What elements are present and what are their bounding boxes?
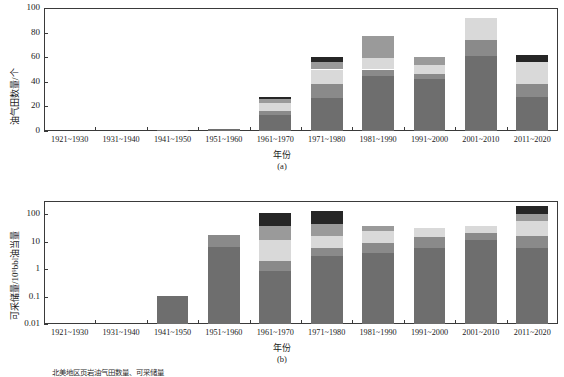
bar-segment	[414, 248, 446, 324]
bar-segment	[465, 56, 497, 131]
x-axis-title-b: 年份	[0, 341, 564, 354]
y-tick-label-a: 20	[6, 101, 40, 110]
x-tick-label-a: 1971~1980	[301, 135, 352, 144]
stacked-bar	[414, 8, 446, 131]
subplot-caption-b: (b)	[0, 354, 564, 364]
bar-segment	[414, 79, 446, 131]
y-tick-mark	[44, 324, 48, 325]
stacked-bar	[465, 8, 497, 131]
y-tick-label-b: 0.1	[6, 292, 40, 301]
bar-segment	[362, 58, 394, 69]
bar-segment	[208, 247, 240, 324]
bar-segment	[516, 248, 548, 324]
bar-segment	[362, 36, 394, 58]
subplot-caption-a: (a)	[0, 161, 564, 171]
stacked-bar	[208, 201, 240, 324]
bar-segment	[362, 226, 394, 231]
x-tick-mark	[250, 320, 251, 324]
bar-segment	[157, 296, 189, 324]
y-tick-mark	[44, 8, 48, 9]
x-tick-mark	[301, 127, 302, 131]
bar-segment	[311, 248, 343, 256]
y-tick-mark	[44, 82, 48, 83]
x-tick-label-b: 1991~2000	[404, 328, 455, 337]
bar-segment	[362, 231, 394, 243]
x-tick-label-b: 1921~1930	[44, 328, 95, 337]
y-tick-mark	[44, 242, 48, 243]
x-tick-label-a: 1961~1970	[250, 135, 301, 144]
x-tick-mark	[95, 127, 96, 131]
bar-segment	[311, 236, 343, 248]
chart-panel-b: 可采储量/10⁹bbl油当量 0.010.11101001921~1930193…	[0, 188, 564, 377]
x-tick-mark	[352, 320, 353, 324]
bar-segment	[362, 70, 394, 76]
bar-segment	[157, 130, 189, 131]
y-tick-label-a: 0	[6, 126, 40, 135]
bar-segment	[259, 115, 291, 131]
y-tick-mark	[44, 106, 48, 107]
y-tick-label-b: 0.01	[6, 319, 40, 328]
y-tick-label-a: 40	[6, 77, 40, 86]
bar-segment	[259, 103, 291, 112]
bar-segment	[311, 84, 343, 98]
x-tick-label-b: 2001~2010	[455, 328, 506, 337]
x-tick-mark	[301, 320, 302, 324]
stacked-bar	[259, 8, 291, 131]
bar-segment	[311, 98, 343, 131]
y-tick-label-a: 60	[6, 52, 40, 61]
bar-segment	[465, 40, 497, 56]
bar-segment	[414, 65, 446, 75]
bar-segment	[465, 18, 497, 40]
y-tick-mark	[44, 57, 48, 58]
x-tick-mark	[455, 127, 456, 131]
bar-segment	[259, 213, 291, 226]
bar-segment	[311, 70, 343, 85]
bar-segment	[311, 224, 343, 236]
y-tick-label-b: 100	[6, 209, 40, 218]
x-tick-mark	[95, 320, 96, 324]
x-tick-label-b: 1951~1960	[198, 328, 249, 337]
stacked-bar	[516, 201, 548, 324]
bar-segment	[311, 62, 343, 69]
x-tick-mark	[507, 320, 508, 324]
x-tick-mark	[404, 320, 405, 324]
bar-segment	[208, 129, 240, 131]
x-tick-mark	[147, 320, 148, 324]
stacked-bar	[465, 201, 497, 324]
bar-segment	[516, 206, 548, 214]
x-tick-label-a: 1941~1950	[147, 135, 198, 144]
stacked-bar	[54, 8, 86, 131]
y-tick-mark	[44, 131, 48, 132]
x-tick-label-b: 1961~1970	[250, 328, 301, 337]
stacked-bar	[157, 201, 189, 324]
bar-segment	[516, 84, 548, 96]
x-tick-label-a: 1981~1990	[352, 135, 403, 144]
x-tick-label-a: 1921~1930	[44, 135, 95, 144]
stacked-bar	[311, 8, 343, 131]
bar-segment	[516, 55, 548, 62]
bar-segment	[259, 261, 291, 271]
bar-segment	[311, 211, 343, 224]
y-tick-label-b: 10	[6, 237, 40, 246]
bar-segment	[259, 271, 291, 324]
bar-segment	[259, 99, 291, 103]
bar-segment	[465, 226, 497, 234]
x-tick-mark	[250, 127, 251, 131]
x-tick-mark	[352, 127, 353, 131]
stacked-bar	[259, 201, 291, 324]
x-tick-label-b: 1971~1980	[301, 328, 352, 337]
chart-panel-a: 油气田数量/个 0204060801001921~19301931~194019…	[0, 0, 564, 190]
bar-segment	[516, 97, 548, 131]
stacked-bar	[105, 201, 137, 324]
x-tick-label-b: 1941~1950	[147, 328, 198, 337]
x-tick-label-a: 2011~2020	[507, 135, 558, 144]
y-tick-mark	[44, 297, 48, 298]
x-tick-label-b: 1981~1990	[352, 328, 403, 337]
bar-segment	[414, 57, 446, 64]
bar-segment	[259, 240, 291, 260]
bar-segment	[414, 74, 446, 79]
stacked-bar	[157, 8, 189, 131]
bar-segment	[465, 240, 497, 324]
bar-segment	[362, 243, 394, 253]
x-tick-label-a: 1931~1940	[95, 135, 146, 144]
